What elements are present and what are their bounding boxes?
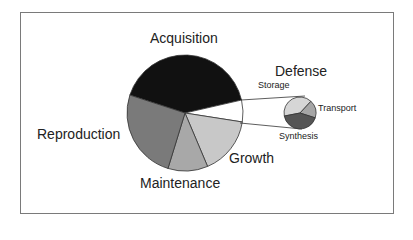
label-transport: Transport (318, 104, 356, 113)
label-storage: Storage (258, 81, 290, 90)
label-defense: Defense (275, 64, 327, 78)
label-maintenance: Maintenance (140, 176, 220, 190)
label-growth: Growth (229, 151, 274, 165)
defense-sub-pie (284, 97, 316, 129)
label-acquisition: Acquisition (150, 31, 218, 45)
label-reproduction: Reproduction (37, 127, 120, 141)
main-pie (127, 55, 243, 171)
label-synthesis: Synthesis (279, 132, 318, 141)
